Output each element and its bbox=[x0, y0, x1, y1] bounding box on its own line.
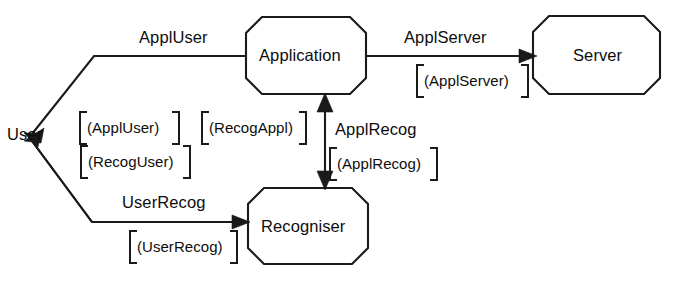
bracket-right-appl-recog bbox=[430, 148, 437, 180]
interface-label-appl-server: (ApplServer) bbox=[424, 73, 509, 88]
edge-label-appl-server: ApplServer bbox=[404, 29, 487, 46]
bracket-right-appl-server bbox=[521, 65, 528, 97]
edge-label-appl-user: ApplUser bbox=[139, 29, 208, 46]
node-label-recogniser: Recogniser bbox=[261, 218, 345, 235]
node-label-server: Server bbox=[573, 47, 622, 64]
bracket-right-appl-user bbox=[172, 112, 179, 144]
interface-label-recog-appl: (RecogAppl) bbox=[209, 120, 293, 135]
diagram-canvas: Application Recogniser Server User ApplU… bbox=[0, 0, 679, 281]
node-label-application: Application bbox=[259, 47, 341, 64]
interface-label-appl-recog: (ApplRecog) bbox=[337, 156, 421, 171]
bracket-left-recog-appl bbox=[202, 112, 209, 144]
interface-label-user-recog: (UserRecog) bbox=[137, 239, 223, 254]
edge-label-user-recog: UserRecog bbox=[122, 194, 205, 211]
edge-arrowhead-recog-appl-up bbox=[317, 93, 333, 112]
diagram-graphics bbox=[0, 0, 679, 281]
bracket-right-user-recog bbox=[230, 231, 237, 263]
node-label-user: User bbox=[7, 126, 42, 143]
bracket-right-recog-user bbox=[183, 146, 190, 178]
bracket-left-appl-server bbox=[417, 65, 424, 97]
bracket-left-appl-user bbox=[80, 112, 87, 144]
interface-label-appl-user: (ApplUser) bbox=[87, 120, 159, 135]
bracket-left-recog-user bbox=[81, 146, 88, 178]
bracket-left-user-recog bbox=[130, 231, 137, 263]
bracket-right-recog-appl bbox=[299, 112, 306, 144]
edge-label-appl-recog: ApplRecog bbox=[335, 121, 417, 138]
interface-label-recog-user: (RecogUser) bbox=[88, 154, 174, 169]
